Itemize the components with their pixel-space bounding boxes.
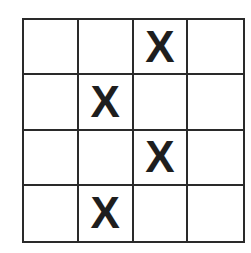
cell-r0-c2[interactable]: X: [134, 20, 189, 75]
cell-r2-c2[interactable]: X: [134, 131, 189, 186]
cell-r1-c1[interactable]: X: [79, 75, 134, 130]
cell-r3-c3[interactable]: [188, 186, 243, 241]
cell-r0-c0[interactable]: [24, 20, 79, 75]
cell-r1-c2[interactable]: [134, 75, 189, 130]
cell-r3-c1[interactable]: X: [79, 186, 134, 241]
cell-r2-c3[interactable]: [188, 131, 243, 186]
cell-r2-c1[interactable]: [79, 131, 134, 186]
cell-r1-c0[interactable]: [24, 75, 79, 130]
cell-r3-c2[interactable]: [134, 186, 189, 241]
cell-r0-c3[interactable]: [188, 20, 243, 75]
cell-r0-c1[interactable]: [79, 20, 134, 75]
cell-r2-c0[interactable]: [24, 131, 79, 186]
game-board: X X X X: [22, 18, 245, 243]
cell-r1-c3[interactable]: [188, 75, 243, 130]
cell-r3-c0[interactable]: [24, 186, 79, 241]
